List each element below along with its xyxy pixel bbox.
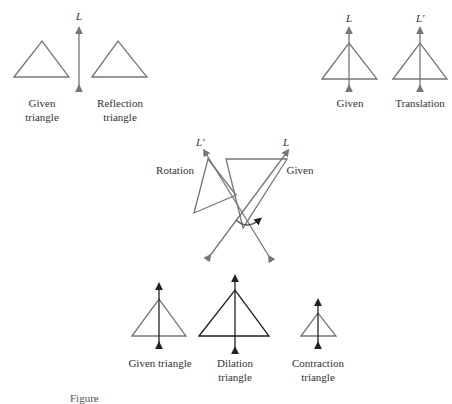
caption-line: triangle [90, 110, 150, 124]
given-line-label: L [346, 12, 352, 24]
given-triangle-caption: Given triangle [12, 96, 72, 124]
translation-caption: Translation [390, 96, 450, 110]
dilation-triangle [199, 290, 269, 336]
caption-line: Contraction [286, 356, 350, 370]
given-caption: Given [325, 96, 375, 110]
dilation-triangle-caption: Dilation triangle [205, 356, 265, 384]
rotated-axis-line [205, 152, 270, 258]
given-triangle-caption: Given triangle [122, 356, 198, 370]
rotation-caption: Rotation [150, 163, 200, 177]
rotated-line-label: L′ [196, 136, 205, 148]
given-axis-line [209, 152, 287, 257]
figure-caption: Figure [70, 392, 99, 404]
reflection-line-label: L [76, 10, 82, 22]
given-triangle [14, 41, 69, 77]
reflection-triangle-caption: Reflection triangle [90, 96, 150, 124]
reflection-panel [14, 30, 147, 88]
rotation-panel [194, 152, 287, 258]
caption-line: triangle [12, 110, 72, 124]
caption-line: Dilation [205, 356, 265, 370]
translation-panel [322, 30, 447, 88]
given-caption: Given [280, 163, 320, 177]
contraction-triangle-caption: Contraction triangle [286, 356, 350, 384]
caption-line: triangle [286, 370, 350, 384]
caption-line: Given [12, 96, 72, 110]
caption-line: Reflection [90, 96, 150, 110]
given-line-label: L [283, 136, 289, 148]
reflection-triangle [92, 41, 147, 77]
caption-line: triangle [205, 370, 265, 384]
dilation-panel [132, 278, 336, 350]
translated-line-label: L′ [416, 12, 425, 24]
